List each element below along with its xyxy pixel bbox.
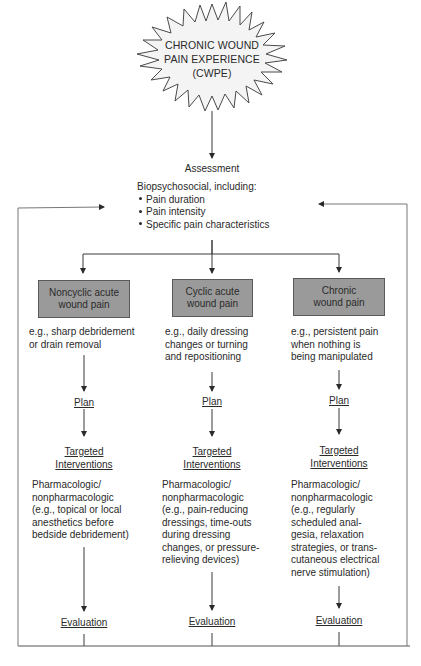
bullet-icon — [139, 222, 142, 225]
feedback-loop-frame — [18, 204, 410, 646]
targeted-interventions-cyclic: TargetedInterventions — [162, 446, 262, 471]
assessment-bullet: Specific pain characteristics — [137, 219, 269, 232]
cwpe-line-1: CHRONIC WOUND — [150, 38, 274, 52]
category-cyclic-acute: Cyclic acutewound pain — [172, 279, 253, 317]
cwpe-title: CHRONIC WOUND PAIN EXPERIENCE (CWPE) — [150, 38, 274, 80]
targeted-interventions-chronic: TargetedInterventions — [289, 445, 389, 470]
interventions-cyclic: Pharmacologic/ nonpharmacologic (e.g., p… — [162, 479, 280, 567]
example-noncyclic: e.g., sharp debridement or drain removal — [29, 326, 149, 351]
targeted-interventions-noncyclic: TargetedInterventions — [34, 446, 134, 471]
assessment-bullet: Pain duration — [137, 194, 269, 207]
evaluation-label-cyclic: Evaluation — [172, 616, 252, 629]
assessment-bullet: Pain intensity — [137, 206, 269, 219]
example-chronic: e.g., persistent pain when nothing is be… — [291, 326, 411, 364]
evaluation-label-chronic: Evaluation — [299, 615, 379, 628]
category-noncyclic-acute: Noncyclic acutewound pain — [38, 280, 130, 318]
interventions-chronic: Pharmacologic/ nonpharmacologic (e.g., r… — [291, 479, 409, 579]
bullet-icon — [139, 210, 142, 213]
bullet-icon — [139, 197, 142, 200]
cwpe-line-2: PAIN EXPERIENCE — [150, 52, 274, 66]
assessment-bullet-list: Pain duration Pain intensity Specific pa… — [137, 194, 269, 232]
interventions-noncyclic: Pharmacologic/ nonpharmacologic (e.g., t… — [32, 479, 150, 542]
assessment-label: Assessment — [162, 163, 262, 174]
cwpe-line-3: (CWPE) — [150, 66, 274, 80]
assessment-intro: Biopsychosocial, including: — [137, 181, 269, 194]
plan-label-cyclic: Plan — [182, 396, 242, 409]
plan-label-chronic: Plan — [309, 395, 369, 408]
plan-label-noncyclic: Plan — [54, 397, 114, 410]
evaluation-label-noncyclic: Evaluation — [44, 617, 124, 630]
example-cyclic: e.g., daily dressing changes or turning … — [165, 326, 285, 364]
category-chronic: Chronicwound pain — [293, 278, 385, 316]
assessment-details: Biopsychosocial, including: Pain duratio… — [137, 181, 269, 231]
